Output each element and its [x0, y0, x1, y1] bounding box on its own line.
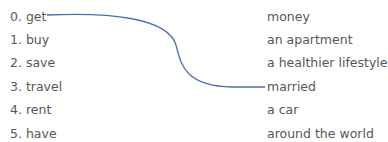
- item-number: 1.: [10, 32, 22, 47]
- left-item: 5. have: [10, 126, 57, 142]
- item-number: 0.: [10, 9, 22, 24]
- left-item: 2. save: [10, 55, 55, 71]
- right-item: around the world: [267, 126, 374, 142]
- item-word: save: [26, 55, 55, 70]
- item-word: buy: [26, 32, 49, 47]
- left-item: 1. buy: [10, 32, 49, 48]
- item-number: 5.: [10, 126, 22, 141]
- item-number: 3.: [10, 79, 22, 94]
- left-item: 0. get: [10, 9, 46, 25]
- item-word: rent: [26, 102, 51, 117]
- right-item: money: [267, 9, 310, 25]
- item-word: get: [26, 9, 47, 24]
- right-item: a healthier lifestyle: [267, 55, 388, 71]
- right-item: a car: [267, 102, 298, 118]
- right-item: married: [267, 79, 316, 95]
- item-word: travel: [26, 79, 62, 94]
- right-item: an apartment: [267, 32, 353, 48]
- item-word: have: [26, 126, 57, 141]
- item-number: 4.: [10, 102, 22, 117]
- item-number: 2.: [10, 55, 22, 70]
- left-item: 4. rent: [10, 102, 51, 118]
- left-item: 3. travel: [10, 79, 62, 95]
